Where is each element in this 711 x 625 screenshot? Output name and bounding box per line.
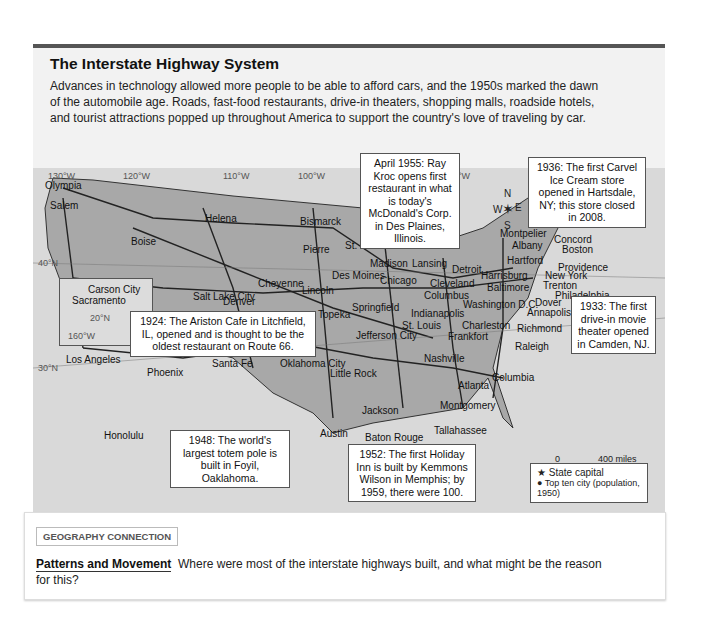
inset-longitude: 160°W (68, 331, 95, 341)
compass-n: N (504, 188, 511, 199)
city-label: Austin (320, 428, 348, 439)
callout-mcdonalds: April 1955: Ray Kroc opens first restaur… (360, 153, 460, 249)
city-label: Honolulu (104, 430, 143, 441)
city-label: Denver (223, 296, 255, 307)
callout-carvel: 1936: The first Carvel Ice Cream store o… (528, 157, 646, 228)
city-label: Hartford (507, 255, 543, 266)
longitude-100w: 100°W (298, 171, 325, 181)
city-label: Frankfort (448, 331, 488, 342)
city-label: Boise (131, 236, 156, 247)
intro-paragraph: Advances in technology allowed more peop… (50, 78, 610, 126)
city-label: Helena (205, 213, 237, 224)
city-label: Charleston (462, 320, 510, 331)
city-label: Des Moines (332, 270, 385, 281)
longitude-120w: 120°W (123, 171, 150, 181)
city-label: Boston (562, 244, 593, 255)
city-label: Los Angeles (66, 354, 121, 365)
city-label: Montgomery (440, 400, 496, 411)
city-label: Little Rock (330, 368, 377, 379)
city-label: Cleveland (430, 278, 474, 289)
city-label: Richmond (517, 323, 562, 334)
inset-latitude: 20°N (90, 313, 110, 323)
city-label: Phoenix (147, 367, 183, 378)
city-label: Jefferson City (356, 330, 417, 341)
city-label: Topeka (318, 309, 350, 320)
legend-top-city: ● Top ten city (population, 1950) (537, 478, 641, 498)
city-label: Indianapolis (411, 308, 464, 319)
callout-holiday-inn: 1952: The first Holiday Inn is built by … (348, 444, 476, 502)
city-label: Raleigh (515, 341, 549, 352)
city-label: Baton Rouge (365, 432, 423, 443)
legend-state-capital: ★ State capital (537, 467, 641, 478)
longitude-110w: 110°W (223, 171, 249, 181)
city-label: Annapolis (527, 307, 571, 318)
city-label: Pierre (303, 244, 330, 255)
city-label: Olympia (45, 180, 82, 191)
city-label: Lansing (412, 258, 447, 269)
callout-drivein: 1933: The first drive-in movie theater o… (571, 296, 656, 354)
city-label: Albany (512, 240, 543, 251)
legend-top-city-label: Top ten city (population, 1950) (537, 478, 640, 498)
map-legend: ★ State capital ● Top ten city (populati… (530, 463, 648, 503)
city-label: Madison (370, 258, 408, 269)
compass-e: E (515, 202, 522, 213)
city-label: Carson City (88, 284, 140, 295)
city-label: Santa Fe (212, 358, 253, 369)
compass-rose-icon: N W E S ✶ (493, 188, 523, 233)
page-title: The Interstate Highway System (50, 55, 279, 73)
latitude-30n: 30°N (38, 363, 58, 373)
city-label: Columbia (492, 372, 534, 383)
latitude-40n: 40°N (38, 258, 58, 268)
city-label: Lincoln (302, 285, 334, 296)
city-label: Cheyenne (258, 278, 304, 289)
city-label: Atlanta (458, 380, 489, 391)
callout-totem: 1948: The world's largest totem pole is … (170, 430, 290, 488)
question-title[interactable]: Patterns and Movement (36, 557, 171, 572)
city-label: Nashville (424, 353, 465, 364)
city-label: Salem (50, 200, 78, 211)
city-label: Sacramento (72, 295, 126, 306)
city-label: Bismarck (300, 216, 341, 227)
city-label: Tallahassee (434, 425, 487, 436)
city-label: Montpelier (500, 228, 547, 239)
callout-ariston: 1924: The Ariston Cafe in Litchfield, IL… (130, 311, 316, 357)
city-label: Springfield (352, 302, 399, 313)
city-label: Detroit (452, 264, 481, 275)
geography-connection-badge: GEOGRAPHY CONNECTION (36, 527, 178, 546)
legend-state-capital-label: State capital (549, 467, 604, 478)
city-label: Baltimore (487, 282, 529, 293)
question-text: Patterns and Movement Where were most of… (36, 556, 616, 588)
city-label: Jackson (362, 405, 399, 416)
city-label: Chicago (380, 275, 417, 286)
city-label: Harrisburg (481, 270, 528, 281)
